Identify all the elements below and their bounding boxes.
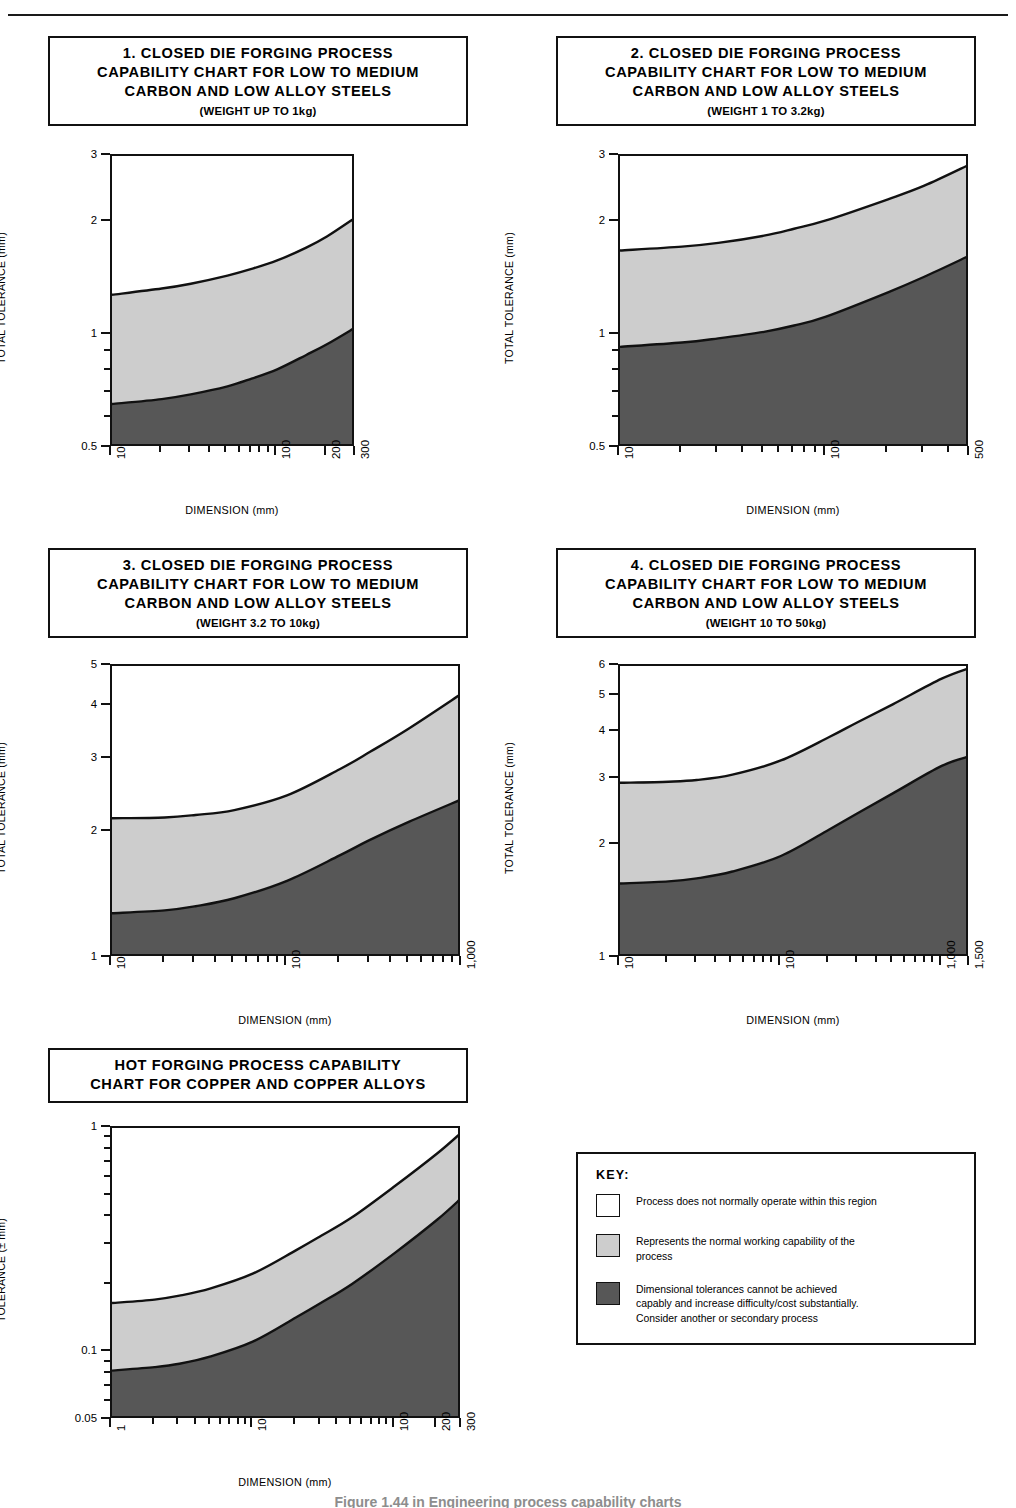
chart-4-y-tick-label: 3 (565, 771, 605, 783)
chart-4-x-tick (923, 956, 925, 962)
chart-2-y-tick (609, 219, 618, 221)
chart-5-x-tick (194, 1418, 196, 1424)
key-label-none: Process does not normally operate within… (636, 1193, 877, 1210)
chart-2-x-tick-label: 500 (973, 440, 985, 459)
chart-2-x-tick (679, 446, 681, 452)
chart-5-x-tick-label: 300 (465, 1412, 477, 1431)
chart-1-x-tick (324, 446, 326, 455)
chart-5-x-tick (370, 1418, 372, 1424)
chart-4-x-tick (762, 956, 764, 962)
chart-1-x-tick (224, 446, 226, 452)
chart-4-x-tick-label: 100 (784, 950, 796, 969)
key-item-none: Process does not normally operate within… (596, 1193, 958, 1217)
chart-3-x-tick (389, 956, 391, 962)
chart-3-y-tick-label: 4 (57, 698, 97, 710)
chart-3-y-tick (101, 663, 110, 665)
chart-1-x-tick-label: 300 (359, 440, 371, 459)
chart-3-x-tick (459, 956, 461, 965)
chart-1-y-tick-label: 2 (57, 214, 97, 226)
chart-4-y-tick (609, 842, 618, 844)
chart-2-x-tick (791, 446, 793, 452)
chart-4-y-tick (609, 693, 618, 695)
key-title: KEY: (596, 1168, 958, 1182)
chart-2-title: 2. CLOSED DIE FORGING PROCESS CAPABILITY… (564, 44, 968, 101)
chart-5-x-tick-label: 1 (115, 1425, 127, 1431)
chart-1-title: 1. CLOSED DIE FORGING PROCESS CAPABILITY… (56, 44, 460, 101)
chart-1-x-tick (208, 446, 210, 452)
chart-3-x-tick-label: 10 (115, 956, 127, 969)
chart-3-y-tick (101, 756, 110, 758)
chart-3-x-tick-label: 100 (290, 950, 302, 969)
chart-4-x-tick (770, 956, 772, 962)
chart-4-x-tick (714, 956, 716, 962)
chart-3-x-tick (337, 956, 339, 962)
chart-3-y-tick (101, 829, 110, 831)
chart-5-plot-area (110, 1126, 460, 1418)
chart-5-x-tick (237, 1418, 239, 1424)
chart-1-y-tick (104, 349, 110, 351)
chart-5-y-tick (101, 1349, 110, 1351)
chart-3-x-tick (406, 956, 408, 962)
chart-3: 12345101001,000TOTAL TOLERANCE (mm)DIMEN… (48, 660, 468, 1030)
chart-1-y-tick (101, 332, 110, 334)
chart-2-y-tick (612, 415, 618, 417)
chart-1-x-tick (249, 446, 251, 452)
chart-5-x-tick (176, 1418, 178, 1424)
chart-2-x-tick (741, 446, 743, 452)
chart-1: 0.512310100200300TOTAL TOLERANCE (mm)DIM… (48, 150, 468, 520)
chart-4-x-tick (890, 956, 892, 962)
chart-4-x-tick-label: 10 (623, 956, 635, 969)
chart-2-x-tick (947, 446, 949, 452)
key-item-normal: Represents the normal working capability… (596, 1233, 958, 1265)
chart-4-x-tick (742, 956, 744, 962)
chart-2-plot-area (618, 154, 968, 446)
chart-1-x-tick (258, 446, 260, 452)
chart-5-x-tick (318, 1418, 320, 1424)
chart-4-y-tick-label: 2 (565, 837, 605, 849)
chart-2-x-tick (823, 446, 825, 455)
chart-3-x-tick (109, 956, 111, 965)
chart-4-x-tick (903, 956, 905, 962)
chart-1-plot-area (110, 154, 354, 446)
chart-2-subtitle: (WEIGHT 1 TO 3.2kg) (564, 105, 968, 117)
chart-2-x-tick-label: 10 (623, 446, 635, 459)
chart-2-y-axis-label: TOTAL TOLERANCE (mm) (503, 213, 515, 383)
key-swatch-difficult (596, 1282, 620, 1305)
chart-5-x-tick (152, 1418, 154, 1424)
chart-5-x-tick (293, 1418, 295, 1424)
chart-5-y-tick (101, 1125, 110, 1127)
chart-4-y-axis-label: TOTAL TOLERANCE (mm) (503, 723, 515, 893)
chart-1-y-tick-label: 1 (57, 327, 97, 339)
chart-3-y-tick (101, 703, 110, 705)
chart-1-x-tick (109, 446, 111, 455)
chart-4-x-tick (875, 956, 877, 962)
chart-3-x-tick (257, 956, 259, 962)
chart-5-x-tick-label: 10 (256, 1418, 268, 1431)
chart-3-y-tick-label: 5 (57, 658, 97, 670)
chart-3-x-tick (284, 956, 286, 965)
chart-4-x-tick (914, 956, 916, 962)
chart-2-y-tick-label: 1 (565, 327, 605, 339)
chart-5-x-tick (385, 1418, 387, 1424)
chart-3-title-box: 3. CLOSED DIE FORGING PROCESS CAPABILITY… (48, 548, 468, 638)
chart-3-x-tick (367, 956, 369, 962)
chart-1-y-tick (104, 415, 110, 417)
chart-1-x-tick-label: 100 (280, 440, 292, 459)
chart-3-x-tick (192, 956, 194, 962)
chart-1-x-tick-label: 200 (330, 440, 342, 459)
key-swatch-none (596, 1194, 620, 1217)
chart-4-x-tick-label: 1,500 (973, 940, 985, 969)
chart-2-x-tick-label: 100 (829, 440, 841, 459)
chart-2-x-tick (761, 446, 763, 452)
chart-4-subtitle: (WEIGHT 10 TO 50kg) (564, 617, 968, 629)
chart-4-x-tick (931, 956, 933, 962)
chart-1-x-tick-label: 10 (115, 446, 127, 459)
chart-1-y-tick (104, 390, 110, 392)
chart-5-x-tick (228, 1418, 230, 1424)
chart-5-x-tick (392, 1418, 394, 1427)
chart-5-y-tick-label: 0.1 (57, 1344, 97, 1356)
chart-5-y-tick (104, 1193, 110, 1195)
chart-3-x-tick (214, 956, 216, 962)
chart-4-x-tick (855, 956, 857, 962)
chart-5-y-tick (104, 1399, 110, 1401)
